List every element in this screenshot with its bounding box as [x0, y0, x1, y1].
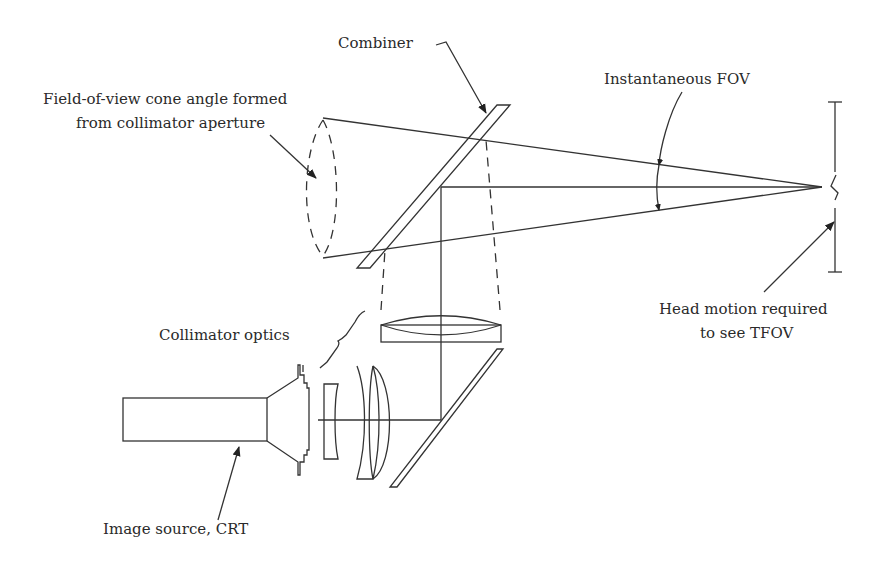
negative-lens	[324, 384, 338, 459]
collimator-optics-label: Collimator optics	[159, 326, 290, 344]
instantaneous-fov-label: Instantaneous FOV	[604, 70, 751, 88]
meniscus-lens	[357, 366, 379, 479]
head-motion-label-line2: to see TFOV	[700, 324, 794, 342]
hud-optics-diagram: Combiner Field-of-view cone angle formed…	[0, 0, 895, 561]
image-source-label: Image source, CRT	[103, 520, 248, 538]
fov-cone-label-line1: Field-of-view cone angle formed	[43, 90, 288, 108]
combiner-label: Combiner	[338, 34, 414, 52]
crt-image-source	[123, 365, 309, 475]
head-motion-range-bar	[828, 102, 842, 272]
head-motion-leader-arrow	[764, 222, 834, 292]
collimator-optics-brace	[320, 311, 365, 368]
crt-leader-arrow	[218, 447, 239, 520]
instantaneous-fov-arc	[657, 92, 682, 210]
head-motion-label-line1: Head motion required	[659, 300, 828, 318]
fold-mirror	[390, 349, 503, 487]
combiner-leader-arrow	[436, 42, 486, 113]
eye-icon	[831, 175, 838, 200]
fov-cone-label-line2: from collimator aperture	[76, 114, 265, 132]
